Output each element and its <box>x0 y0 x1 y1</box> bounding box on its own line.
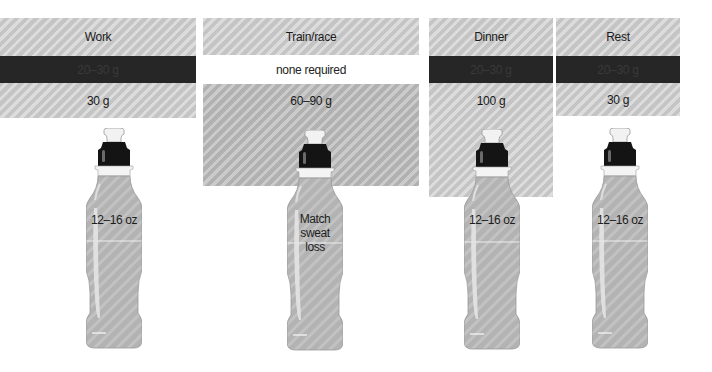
amount-value: 30 g <box>87 94 109 108</box>
amount-row-dinner: 100 g <box>429 84 553 118</box>
dark-band-rest: 20–30 g <box>556 56 680 83</box>
amount-value: 60–90 g <box>290 94 331 108</box>
amount-row-work: 30 g <box>0 84 196 118</box>
column-header-work: Work <box>0 18 196 55</box>
amount-value: 100 g <box>477 94 506 108</box>
dark-band-work: 20–30 g <box>0 56 196 83</box>
sports-bottle-icon <box>592 128 648 350</box>
bottle-label-rest: 12–16 oz <box>592 213 648 227</box>
sports-bottle-icon <box>86 128 142 350</box>
band-value: 20–30 g <box>77 63 118 77</box>
dark-band-dinner: 20–30 g <box>429 56 553 83</box>
bottle-train-race: Match sweat loss <box>287 130 343 352</box>
white-band-train-race: none required <box>203 55 419 84</box>
band-value: 20–30 g <box>597 63 638 77</box>
column-header-dinner: Dinner <box>429 18 553 55</box>
amount-row-train-race: 60–90 g <box>203 84 419 118</box>
column-header-rest: Rest <box>556 18 680 55</box>
column-title: Train/race <box>286 30 337 44</box>
column-header-train-race: Train/race <box>203 18 419 55</box>
panel-work: Work 20–30 g 30 g <box>0 18 196 118</box>
band-value: 20–30 g <box>470 63 511 77</box>
bottle-work: 12–16 oz <box>86 128 142 350</box>
column-title: Work <box>85 30 112 44</box>
bottle-dinner: 12–16 oz <box>464 129 520 351</box>
amount-row-rest: 30 g <box>556 84 680 116</box>
band-value: none required <box>276 63 346 77</box>
bottle-rest: 12–16 oz <box>592 128 648 350</box>
bottle-label-dinner: 12–16 oz <box>464 213 520 227</box>
column-title: Dinner <box>474 30 508 44</box>
bottle-label-train-race: Match sweat loss <box>281 212 349 254</box>
sports-bottle-icon <box>464 129 520 351</box>
bottle-label-work: 12–16 oz <box>86 213 142 227</box>
amount-value: 30 g <box>607 93 629 107</box>
column-title: Rest <box>606 30 629 44</box>
panel-rest: Rest 20–30 g 30 g <box>556 18 680 116</box>
